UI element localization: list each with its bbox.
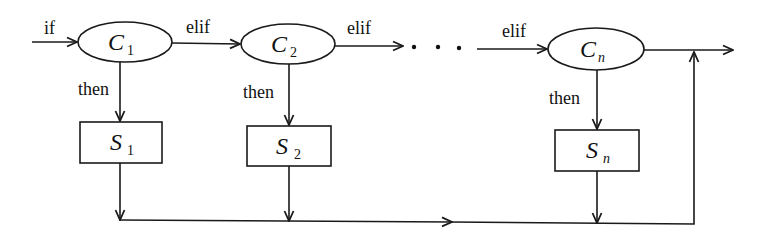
- then-label-n: then: [549, 88, 580, 108]
- statement-subscript-s1: 1: [127, 143, 134, 158]
- elif-label-3: elif: [502, 21, 526, 41]
- ellipsis-dot: [412, 45, 416, 49]
- elif-arrow-1: [172, 43, 240, 44]
- elif-edge-dots-cn: elif: [477, 21, 547, 49]
- condition-symbol-c2: C: [271, 31, 288, 57]
- statement-box-s2: [247, 126, 331, 166]
- then-edge-c2: then: [243, 64, 289, 125]
- then-label-1: then: [78, 79, 109, 99]
- condition-subscript-c2: 2: [290, 45, 297, 60]
- merge-arrow: [119, 220, 452, 222]
- then-edge-cn: then: [549, 70, 597, 129]
- statement-node-s2: S 2: [247, 126, 331, 166]
- entry-edge: if: [32, 18, 77, 42]
- statement-node-s1: S 1: [80, 122, 162, 163]
- ellipsis-dot: [457, 46, 461, 50]
- statement-node-sn: S n: [555, 130, 639, 171]
- if-elif-flowchart: if C 1 elif C 2 elif elif C n: [0, 0, 769, 239]
- then-edge-c1: then: [78, 62, 120, 121]
- condition-node-cn: C n: [548, 28, 644, 70]
- condition-symbol-c1: C: [108, 29, 125, 55]
- statement-symbol-s2: S: [276, 133, 288, 159]
- statement-symbol-s1: S: [110, 129, 122, 155]
- condition-node-c1: C 1: [78, 22, 172, 62]
- statement-subscript-sn: n: [603, 151, 610, 166]
- statement-symbol-sn: S: [586, 137, 598, 163]
- if-label: if: [44, 18, 55, 38]
- elif-edge-c1-c2: elif: [172, 17, 240, 44]
- condition-node-c2: C 2: [241, 24, 335, 64]
- then-label-2: then: [243, 82, 274, 102]
- statement-subscript-s2: 2: [294, 147, 301, 162]
- ellipsis-dots: [412, 45, 461, 50]
- condition-symbol-cn: C: [580, 36, 597, 62]
- elif-label-1: elif: [186, 17, 210, 37]
- ellipsis-dot: [436, 45, 440, 49]
- elif-label-2: elif: [347, 18, 371, 38]
- elif-edge-c2-dots: elif: [335, 18, 403, 46]
- condition-subscript-c1: 1: [127, 43, 134, 58]
- condition-ellipse-c2: [241, 24, 335, 64]
- condition-subscript-cn: n: [598, 50, 605, 65]
- condition-ellipse-c1: [78, 22, 172, 62]
